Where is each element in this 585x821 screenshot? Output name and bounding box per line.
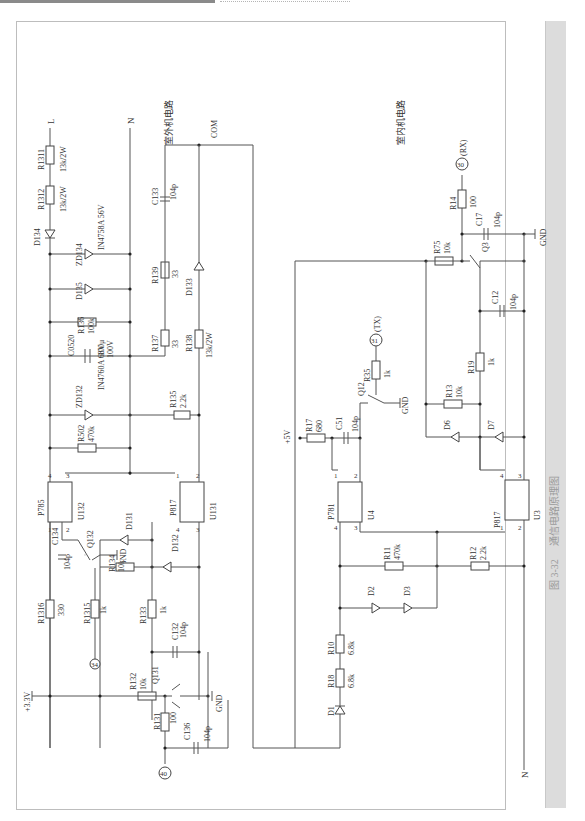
svg-text:R138: R138 — [185, 335, 194, 352]
svg-text:R134: R134 — [108, 555, 117, 572]
svg-text:C17: C17 — [475, 213, 484, 226]
svg-text:R1315: R1315 — [83, 603, 92, 624]
svg-text:40: 40 — [160, 770, 168, 778]
resistor-R14 — [458, 190, 466, 208]
svg-text:4: 4 — [176, 526, 180, 534]
svg-text:C12: C12 — [491, 291, 500, 304]
svg-text:R131: R131 — [153, 713, 162, 730]
svg-text:Q3: Q3 — [481, 242, 490, 252]
svg-text:GND: GND — [215, 694, 224, 712]
diode-D135 — [85, 284, 93, 294]
resistor-R35 — [372, 361, 380, 379]
optocoupler-U4 — [338, 482, 362, 522]
svg-text:D133: D133 — [185, 278, 194, 296]
resistor-R138 — [195, 330, 203, 348]
resistor-R19 — [476, 353, 484, 371]
svg-text:D7: D7 — [487, 420, 496, 430]
svg-text:100: 100 — [469, 196, 478, 208]
svg-text:R502: R502 — [77, 425, 86, 442]
svg-text:4: 4 — [500, 472, 504, 480]
svg-text:10k: 10k — [455, 386, 464, 398]
svg-text:C136: C136 — [183, 723, 192, 740]
svg-text:P785: P785 — [37, 500, 46, 516]
svg-text:2: 2 — [518, 524, 522, 532]
optocoupler-U132 — [48, 482, 72, 522]
net-5v-label: +5V — [283, 429, 292, 444]
indoor-circuit-label: 室内机电路 — [395, 100, 406, 145]
svg-text:104p: 104p — [169, 184, 178, 200]
svg-text:R1312: R1312 — [37, 189, 46, 210]
net-3v3-label: +3.3V — [23, 691, 32, 712]
svg-text:100k: 100k — [87, 318, 96, 334]
svg-text:1k: 1k — [159, 606, 168, 614]
svg-text:2: 2 — [354, 472, 358, 480]
caption-title: 通信电路原理图 — [548, 476, 560, 546]
svg-text:R13: R13 — [445, 385, 454, 398]
resistor-R131 — [161, 713, 169, 731]
svg-text:C51: C51 — [335, 417, 344, 430]
svg-text:13k/2W: 13k/2W — [205, 332, 214, 358]
resistor-R1312 — [46, 186, 54, 204]
svg-text:D1: D1 — [327, 706, 336, 716]
resistor-R1311 — [46, 146, 54, 164]
svg-text:C134: C134 — [51, 528, 60, 545]
svg-text:1k: 1k — [99, 606, 108, 614]
svg-text:GND: GND — [401, 396, 410, 414]
resistor-R12 — [471, 562, 489, 570]
svg-text:D135: D135 — [75, 282, 84, 300]
svg-text:104p: 104p — [63, 554, 72, 570]
svg-text:D6: D6 — [443, 420, 452, 430]
svg-text:2: 2 — [66, 526, 70, 534]
svg-text:R132: R132 — [129, 673, 138, 690]
optocoupler-U131 — [180, 482, 204, 522]
zener-ZD132 — [85, 410, 93, 420]
resistor-R11 — [385, 562, 403, 570]
svg-text:100: 100 — [169, 712, 178, 724]
resistor-R1316 — [46, 600, 54, 618]
svg-text:C0520: C0520 — [67, 335, 76, 356]
svg-text:470k: 470k — [87, 426, 96, 442]
svg-text:R19: R19 — [467, 361, 476, 374]
svg-text:104p: 104p — [203, 726, 212, 742]
svg-text:10k: 10k — [117, 560, 126, 572]
resistor-R137 — [161, 330, 169, 346]
svg-text:R135: R135 — [169, 391, 178, 408]
svg-text:680: 680 — [315, 420, 324, 432]
svg-text:1: 1 — [334, 472, 338, 480]
outdoor-circuit-label: 室外机电路 — [163, 100, 174, 145]
svg-text:R12: R12 — [469, 547, 478, 560]
svg-text:1: 1 — [500, 524, 504, 532]
svg-text:D3: D3 — [403, 586, 412, 596]
svg-text:P781: P781 — [327, 504, 336, 520]
diode-D1 — [335, 706, 345, 714]
svg-text:3: 3 — [354, 524, 358, 532]
svg-text:6.8k: 6.8k — [347, 641, 356, 655]
svg-text:C133: C133 — [151, 188, 160, 205]
diode-D131 — [120, 535, 128, 545]
transistor-Q12 — [368, 395, 384, 403]
svg-text:100V: 100V — [106, 340, 115, 358]
svg-text:Q132: Q132 — [86, 530, 95, 548]
diode-D6 — [451, 432, 459, 442]
resistor-R17 — [307, 434, 325, 442]
svg-text:IN4758A 56V: IN4758A 56V — [97, 204, 106, 250]
svg-text:3: 3 — [66, 472, 70, 480]
svg-text:Q12: Q12 — [357, 382, 366, 396]
net-L-label: L — [46, 119, 56, 125]
svg-text:33: 33 — [171, 340, 180, 348]
diode-D7 — [495, 432, 503, 442]
svg-text:1: 1 — [176, 472, 180, 480]
svg-text:104p: 104p — [509, 294, 518, 310]
net-N-indoor-label: N — [520, 771, 530, 778]
svg-text:4: 4 — [48, 472, 52, 480]
optocoupler-U3 — [505, 480, 529, 520]
svg-text:P817: P817 — [169, 500, 178, 516]
svg-text:U131: U131 — [209, 502, 218, 520]
svg-text:330: 330 — [57, 604, 66, 616]
svg-text:ZD134: ZD134 — [75, 243, 84, 266]
svg-text:U132: U132 — [77, 502, 86, 520]
svg-text:4: 4 — [334, 524, 338, 532]
svg-text:R1316: R1316 — [37, 603, 46, 624]
svg-text:R35: R35 — [363, 369, 372, 382]
svg-text:104p: 104p — [179, 622, 188, 638]
